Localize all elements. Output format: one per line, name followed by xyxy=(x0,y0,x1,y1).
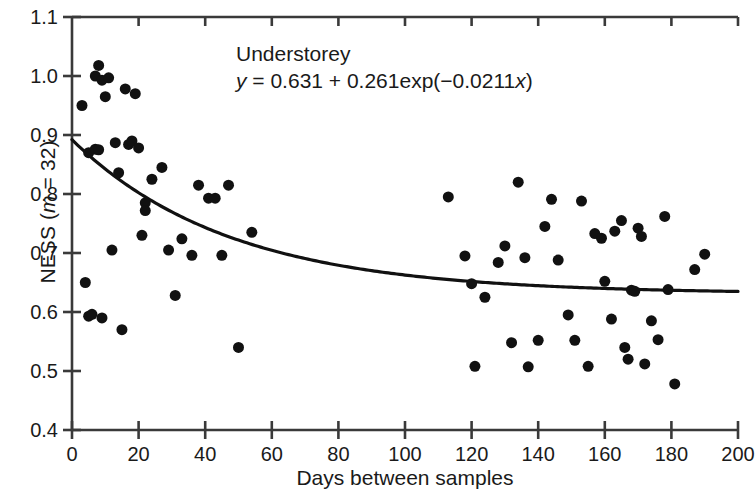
data-point xyxy=(639,358,650,369)
data-point xyxy=(80,277,91,288)
y-tick-label: 1.0 xyxy=(12,66,58,86)
data-point xyxy=(93,144,104,155)
x-tick-label: 140 xyxy=(508,444,568,464)
data-point xyxy=(210,193,221,204)
data-point xyxy=(479,292,490,303)
x-tick-label: 20 xyxy=(109,444,169,464)
fit-curve-layer xyxy=(72,140,738,292)
data-point xyxy=(623,354,634,365)
data-point xyxy=(146,174,157,185)
data-point xyxy=(493,257,504,268)
x-axis-title: Days between samples xyxy=(72,466,738,490)
data-point xyxy=(233,342,244,353)
data-point xyxy=(663,284,674,295)
data-point xyxy=(113,167,124,178)
data-point xyxy=(116,324,127,335)
data-point xyxy=(459,250,470,261)
data-point xyxy=(506,337,517,348)
y-tick-label: 0.4 xyxy=(12,420,58,440)
data-point xyxy=(106,245,117,256)
data-point xyxy=(689,264,700,275)
data-point xyxy=(606,314,617,325)
data-point xyxy=(669,378,680,389)
y-axis-title: NESS (m = 32) xyxy=(36,92,60,332)
y-axis-title-suffix: = 32) xyxy=(36,140,59,195)
data-point xyxy=(609,226,620,237)
data-point xyxy=(699,249,710,260)
x-tick-label: 180 xyxy=(641,444,701,464)
y-axis-title-italic-m: m xyxy=(36,195,59,213)
x-tick-label: 0 xyxy=(42,444,102,464)
chart-annotation-block: Understorey y = 0.631 + 0.261exp(−0.0211… xyxy=(236,40,533,94)
data-point xyxy=(96,312,107,323)
data-point xyxy=(519,252,530,263)
data-point xyxy=(629,286,640,297)
data-point xyxy=(120,83,131,94)
data-point xyxy=(216,250,227,261)
y-tick-label: 1.1 xyxy=(12,7,58,27)
x-tick-label: 120 xyxy=(442,444,502,464)
data-point xyxy=(616,215,627,226)
data-point xyxy=(619,342,630,353)
fit-curve xyxy=(72,140,738,292)
equation-body: = 0.631 + 0.261exp(−0.0211 xyxy=(247,69,516,92)
x-tick-label: 200 xyxy=(708,444,755,464)
data-point xyxy=(533,335,544,346)
equation-variable-x: x xyxy=(515,69,526,92)
data-point xyxy=(553,255,564,266)
x-tick-label: 160 xyxy=(575,444,635,464)
data-point xyxy=(86,309,97,320)
fit-equation-line: y = 0.631 + 0.261exp(−0.0211x) xyxy=(236,67,533,94)
data-point xyxy=(469,361,480,372)
data-point xyxy=(523,361,534,372)
data-point xyxy=(93,60,104,71)
data-point xyxy=(569,335,580,346)
data-point xyxy=(659,211,670,222)
data-point xyxy=(140,205,151,216)
data-point xyxy=(133,142,144,153)
data-point xyxy=(136,230,147,241)
series-label: Understorey xyxy=(236,40,533,67)
data-point xyxy=(546,194,557,205)
data-point xyxy=(539,221,550,232)
data-point xyxy=(599,276,610,287)
equation-close-paren: ) xyxy=(526,69,533,92)
data-point xyxy=(246,227,257,238)
data-points-layer xyxy=(76,60,710,390)
data-point xyxy=(596,233,607,244)
data-point xyxy=(100,91,111,102)
data-point xyxy=(636,231,647,242)
y-tick-label: 0.5 xyxy=(12,361,58,381)
data-point xyxy=(193,180,204,191)
data-point xyxy=(466,278,477,289)
data-point xyxy=(130,88,141,99)
data-point xyxy=(110,137,121,148)
data-point xyxy=(499,240,510,251)
data-point xyxy=(646,315,657,326)
data-point xyxy=(443,191,454,202)
data-point xyxy=(563,309,574,320)
data-point xyxy=(170,290,181,301)
data-point xyxy=(176,233,187,244)
x-tick-label: 40 xyxy=(175,444,235,464)
x-tick-label: 100 xyxy=(375,444,435,464)
x-tick-label: 80 xyxy=(308,444,368,464)
data-point xyxy=(163,245,174,256)
equation-variable-y: y xyxy=(236,69,247,92)
scatter-chart-figure: 0.40.50.60.70.80.91.01.1 020406080100120… xyxy=(0,0,755,494)
data-point xyxy=(513,177,524,188)
data-point xyxy=(653,334,664,345)
data-point xyxy=(156,162,167,173)
data-point xyxy=(223,180,234,191)
data-point xyxy=(576,196,587,207)
x-tick-label: 60 xyxy=(242,444,302,464)
data-point xyxy=(186,250,197,261)
data-point xyxy=(103,72,114,83)
data-point xyxy=(76,100,87,111)
y-axis-title-prefix: NESS ( xyxy=(36,213,59,284)
data-point xyxy=(583,361,594,372)
